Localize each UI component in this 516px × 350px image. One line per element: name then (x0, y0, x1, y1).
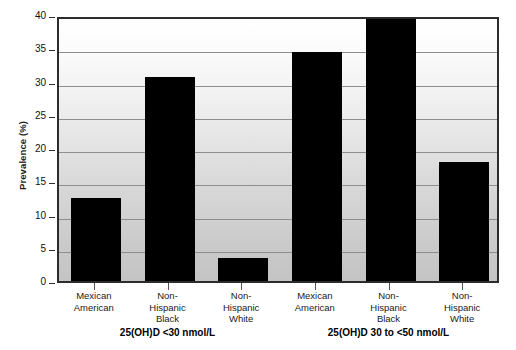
y-tick-label-35: 35 (22, 44, 46, 54)
gridline-20 (59, 152, 497, 153)
y-tick-30 (49, 84, 55, 85)
y-tick-15 (49, 183, 55, 184)
y-tick-label-wrap-35: 35 (14, 50, 46, 51)
y-tick-label-wrap-40: 40 (14, 17, 46, 18)
x-label-line: Non- (417, 290, 507, 302)
x-tick-4 (315, 283, 316, 290)
gridline-25 (59, 119, 497, 120)
gridline-35 (59, 52, 497, 53)
bar-5 (366, 18, 416, 281)
plot-area (57, 17, 499, 283)
gridline-30 (59, 86, 497, 87)
y-tick-40 (49, 17, 55, 18)
y-tick-label-wrap-10: 10 (14, 217, 46, 218)
y-tick-20 (49, 150, 55, 151)
x-label-line: White (417, 313, 507, 325)
gridline-10 (59, 219, 497, 220)
y-tick-5 (49, 250, 55, 251)
bar-4 (292, 52, 342, 281)
chart-figure: Prevalence (%) 0510152025303540 MexicanA… (0, 0, 516, 350)
x-tick-6 (462, 283, 463, 290)
y-tick-35 (49, 50, 55, 51)
bar-6 (439, 162, 489, 281)
x-category-label-6: Non-HispanicWhite (417, 290, 507, 325)
y-tick-label-40: 40 (22, 11, 46, 21)
y-tick-label-wrap-20: 20 (14, 150, 46, 151)
x-tick-2 (168, 283, 169, 290)
x-label-line: Hispanic (417, 302, 507, 314)
y-tick-label-10: 10 (22, 211, 46, 221)
bar-2 (145, 77, 195, 281)
y-tick-25 (49, 117, 55, 118)
y-tick-label-wrap-30: 30 (14, 84, 46, 85)
bar-1 (71, 198, 121, 281)
x-tick-3 (241, 283, 242, 290)
bar-3 (218, 258, 268, 281)
y-tick-label-wrap-0: 0 (14, 283, 46, 284)
y-tick-label-0: 0 (22, 277, 46, 287)
y-tick-label-20: 20 (22, 144, 46, 154)
y-tick-label-wrap-25: 25 (14, 117, 46, 118)
gridline-15 (59, 185, 497, 186)
y-tick-label-wrap-5: 5 (14, 250, 46, 251)
group-label-2: 25(OH)D 30 to <50 nmol/L (279, 327, 499, 338)
y-tick-10 (49, 217, 55, 218)
y-axis-title: Prevalence (%) (17, 86, 28, 226)
y-tick-label-5: 5 (22, 244, 46, 254)
y-tick-label-30: 30 (22, 78, 46, 88)
x-label-line: White (196, 313, 286, 325)
group-label-1: 25(OH)D <30 nmol/L (58, 327, 278, 338)
y-tick-label-15: 15 (22, 177, 46, 187)
x-tick-5 (389, 283, 390, 290)
y-tick-label-25: 25 (22, 111, 46, 121)
gridline-5 (59, 252, 497, 253)
y-tick-0 (49, 283, 55, 284)
y-tick-label-wrap-15: 15 (14, 183, 46, 184)
x-tick-1 (94, 283, 95, 290)
